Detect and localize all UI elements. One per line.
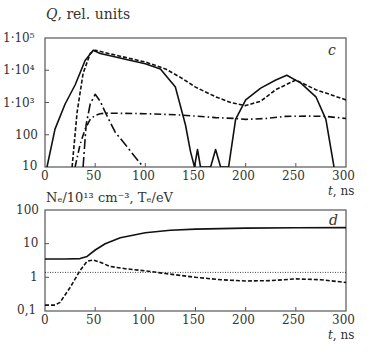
panel-d-letter: d [329, 212, 338, 228]
bottom-x-axis-label: t, ns [328, 328, 354, 342]
top-ytick-1e4: 1·10⁴ [3, 63, 35, 77]
bottom-ytick-0-1: 0,1 [17, 303, 36, 317]
top-xtick-150: 150 [182, 169, 205, 183]
panel-c-y-axis-label: Q, rel. units [46, 6, 130, 22]
x-label-unit: , ns [333, 184, 355, 198]
panel-c-letter: c [328, 42, 336, 58]
bottom-xtick-50: 50 [86, 313, 101, 327]
top-ytick-10: 10 [22, 159, 37, 173]
top-xtick-100: 100 [132, 169, 155, 183]
top-xtick-0: 0 [41, 169, 49, 183]
panel-d-y-axis-label: Nₑ/10¹³ cm⁻³, Tₑ/eV [46, 190, 173, 205]
series-dashdot-line [75, 113, 346, 167]
top-xtick-200: 200 [232, 169, 255, 183]
bottom-xtick-300: 300 [332, 313, 355, 327]
top-xtick-50: 50 [86, 169, 101, 183]
plot-frame [45, 38, 346, 167]
top-ytick-1e3: 1·10³ [3, 96, 35, 110]
panel-c-plot [45, 38, 346, 167]
top-ytick-100: 100 [15, 128, 38, 142]
bottom-xtick-200: 200 [232, 313, 255, 327]
series-solid-line [45, 228, 346, 259]
y-label-units: , rel. units [57, 6, 130, 22]
bottom-ytick-100: 100 [16, 203, 39, 217]
top-xtick-300: 300 [332, 169, 355, 183]
top-x-axis-label: t, ns [328, 184, 354, 198]
bottom-ytick-1: 1 [30, 270, 38, 284]
bottom-xtick-0: 0 [41, 313, 49, 327]
series-dashdot-long-line [83, 94, 143, 167]
bottom-xtick-250: 250 [282, 313, 305, 327]
x-label-unit: , ns [333, 328, 355, 342]
top-ytick-1e5: 1·10⁵ [3, 31, 35, 45]
series-dashed-line [45, 260, 346, 305]
panel-d-plot [45, 210, 346, 311]
top-xtick-250: 250 [282, 169, 305, 183]
y-label-q: Q [46, 6, 57, 22]
bottom-ytick-10: 10 [23, 236, 38, 250]
bottom-xtick-150: 150 [182, 313, 205, 327]
bottom-xtick-100: 100 [132, 313, 155, 327]
series-dashed-line [72, 50, 346, 167]
